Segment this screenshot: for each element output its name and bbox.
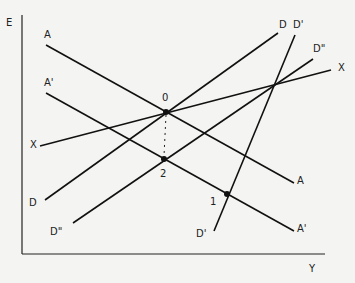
- dotted-guides: [164, 115, 166, 156]
- point-0-marker: [163, 109, 169, 115]
- line-label-D-prime: D': [196, 228, 206, 239]
- line-label-A: A: [44, 29, 51, 40]
- y-axis-label: E: [6, 17, 12, 28]
- economic-diagram: EYAAA'A'XXDDD'D'D"D"021: [0, 0, 355, 283]
- axes: [22, 15, 325, 254]
- line-label-X: X: [30, 139, 37, 150]
- line-X: [40, 70, 331, 146]
- dotted-guide-line: [164, 115, 166, 156]
- curves: [40, 33, 331, 231]
- point-2-marker: [161, 156, 167, 162]
- point-1-label: 1: [210, 196, 216, 207]
- point-1-marker: [224, 191, 230, 197]
- line-D-prime: [214, 35, 295, 231]
- x-axis-label: Y: [308, 263, 316, 274]
- line-D-double-prime: [73, 59, 313, 223]
- line-label-D-double-prime: D": [313, 43, 325, 54]
- line-label-A-prime: A': [297, 223, 307, 234]
- point-0-label: 0: [162, 92, 168, 103]
- line-label-A: A: [297, 175, 304, 186]
- line-label-D-double-prime: D": [50, 226, 62, 237]
- line-label-D: D: [279, 19, 287, 30]
- line-label-X: X: [338, 62, 345, 73]
- line-label-D-prime: D': [293, 19, 303, 30]
- labels: EYAAA'A'XXDDD'D'D"D"021: [6, 17, 345, 274]
- line-label-D: D: [29, 197, 37, 208]
- point-2-label: 2: [160, 168, 166, 179]
- line-label-A-prime: A': [44, 77, 54, 88]
